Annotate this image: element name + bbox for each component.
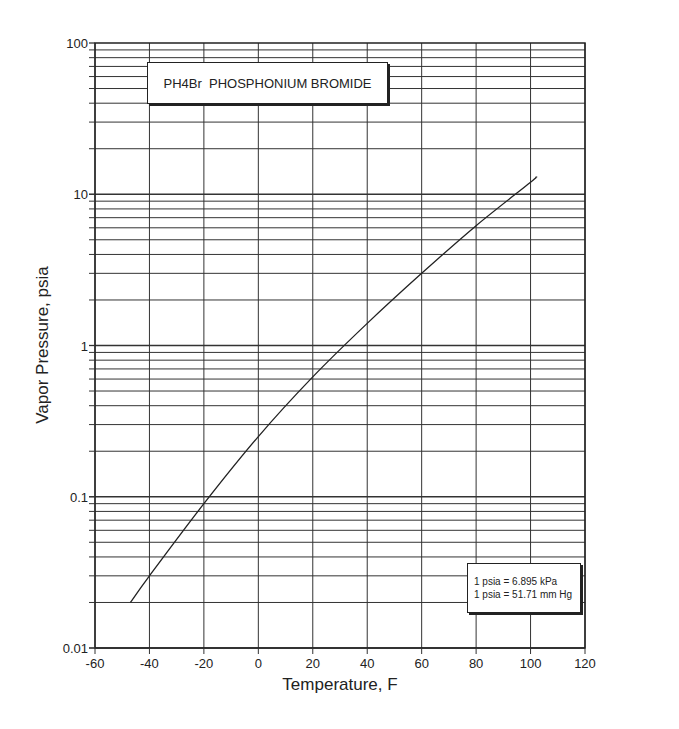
note-line-kpa: 1 psia = 6.895 kPa <box>474 575 580 588</box>
chart-title-box: PH4Br PHOSPHONIUM BROMIDE <box>147 62 388 104</box>
vapor-pressure-chart: -60-40-200204060801001200.010.1110100 Te… <box>0 0 679 729</box>
y-tick-label: 100 <box>66 36 88 51</box>
x-tick-label: 40 <box>360 656 374 671</box>
grid-lines <box>95 43 585 648</box>
note-line-mmhg: 1 psia = 51.71 mm Hg <box>474 588 580 601</box>
y-tick-label: 0.1 <box>70 490 88 505</box>
x-tick-label: 0 <box>255 656 262 671</box>
x-tick-label: 80 <box>469 656 483 671</box>
y-tick-label: 1 <box>81 339 88 354</box>
x-tick-label: 60 <box>414 656 428 671</box>
y-tick-label: 0.01 <box>63 641 88 656</box>
x-tick-label: -40 <box>140 656 159 671</box>
chart-title: PH4Br PHOSPHONIUM BROMIDE <box>163 76 371 91</box>
x-tick-label: -20 <box>194 656 213 671</box>
x-tick-label: -60 <box>86 656 105 671</box>
unit-conversion-note: 1 psia = 6.895 kPa 1 psia = 51.71 mm Hg <box>467 563 581 613</box>
x-tick-label: 120 <box>574 656 596 671</box>
x-tick-label: 100 <box>520 656 542 671</box>
y-tick-label: 10 <box>74 187 88 202</box>
y-axis-label: Vapor Pressure, psia <box>33 266 52 424</box>
x-axis-label: Temperature, F <box>282 675 397 694</box>
x-tick-label: 20 <box>306 656 320 671</box>
